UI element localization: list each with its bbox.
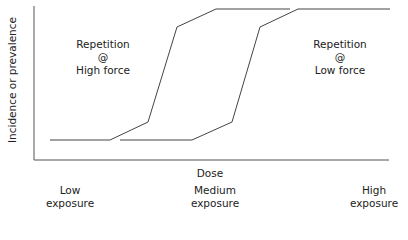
annotation-line: Repetition [305, 38, 375, 51]
x-axis-label: Dose [180, 167, 240, 180]
y-axis-label: Incidence or prevalence [6, 23, 18, 143]
region-line: exposure [344, 197, 404, 210]
annotation-line: @ [68, 51, 138, 64]
region-line: exposure [40, 197, 100, 210]
annotation-line: Repetition [68, 38, 138, 51]
annotation-line: High force [68, 64, 138, 77]
region-line: Medium [180, 184, 250, 197]
annotation-high-force: Repetition @ High force [68, 38, 138, 77]
region-label-medium: Medium exposure [180, 184, 250, 210]
annotation-line: @ [305, 51, 375, 64]
annotation-line: Low force [305, 64, 375, 77]
region-line: High [344, 184, 404, 197]
annotation-low-force: Repetition @ Low force [305, 38, 375, 77]
region-label-high: High exposure [344, 184, 404, 210]
region-line: exposure [180, 197, 250, 210]
region-line: Low [40, 184, 100, 197]
region-label-low: Low exposure [40, 184, 100, 210]
